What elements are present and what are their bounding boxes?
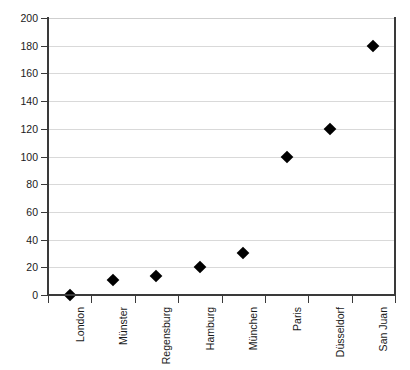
x-axis-tick-2 (135, 296, 136, 303)
gridline-20 (48, 267, 395, 268)
y-axis-label-40: 40 (26, 235, 38, 246)
y-axis-label-160: 160 (20, 68, 38, 79)
gridline-200 (48, 18, 395, 19)
y-axis-label-80: 80 (26, 179, 38, 190)
y-axis-tick-40 (41, 240, 47, 241)
x-axis-tick-7 (352, 296, 353, 303)
y-axis-tick-200 (41, 18, 47, 19)
y-axis-tick-160 (41, 73, 47, 74)
gridline-140 (48, 101, 395, 102)
y-axis-tick-0 (41, 295, 47, 296)
y-axis-tick-100 (41, 157, 47, 158)
x-axis-label-san-juan: San Juan (378, 307, 389, 351)
x-axis-label-düsseldorf: Düsseldorf (335, 307, 346, 357)
y-axis-tick-20 (41, 267, 47, 268)
data-point-düsseldorf (324, 122, 337, 135)
data-point-münchen (237, 247, 250, 260)
gridline-100 (48, 157, 395, 158)
y-axis-label-0: 0 (32, 290, 38, 301)
plot-area (48, 18, 395, 295)
data-point-paris (280, 150, 293, 163)
y-axis-tick-140 (41, 101, 47, 102)
right-axis-line (394, 17, 396, 296)
y-axis-line (47, 17, 49, 296)
y-axis-label-60: 60 (26, 207, 38, 218)
y-axis-label-140: 140 (20, 96, 38, 107)
y-axis-tick-120 (41, 129, 47, 130)
y-axis-tick-60 (41, 212, 47, 213)
y-axis-label-180: 180 (20, 41, 38, 52)
x-axis-label-hamburg: Hamburg (205, 307, 216, 350)
scatter-chart: 020406080100120140160180200 LondonMünste… (0, 0, 410, 370)
x-axis-label-london: London (75, 307, 86, 342)
data-point-regensburg (150, 269, 163, 282)
gridline-80 (48, 184, 395, 185)
data-point-san-juan (367, 39, 380, 52)
x-axis-tick-0 (48, 296, 49, 303)
x-axis-label-paris: Paris (292, 307, 303, 331)
data-point-münster (107, 273, 120, 286)
x-axis-tick-6 (308, 296, 309, 303)
y-axis-tick-80 (41, 184, 47, 185)
x-axis-label-münster: Münster (118, 307, 129, 345)
gridline-160 (48, 73, 395, 74)
data-point-hamburg (193, 261, 206, 274)
y-axis-tick-180 (41, 46, 47, 47)
x-axis-tick-4 (222, 296, 223, 303)
x-axis-tick-5 (265, 296, 266, 303)
y-axis-label-200: 200 (20, 13, 38, 24)
gridline-40 (48, 240, 395, 241)
x-axis-tick-8 (395, 296, 396, 303)
x-axis-tick-1 (91, 296, 92, 303)
x-axis-label-münchen: München (248, 307, 259, 350)
y-axis-label-100: 100 (20, 152, 38, 163)
gridline-180 (48, 46, 395, 47)
x-axis-label-regensburg: Regensburg (161, 307, 172, 364)
x-axis-tick-3 (178, 296, 179, 303)
gridline-120 (48, 129, 395, 130)
y-axis-label-20: 20 (26, 262, 38, 273)
gridline-60 (48, 212, 395, 213)
y-axis-label-120: 120 (20, 124, 38, 135)
